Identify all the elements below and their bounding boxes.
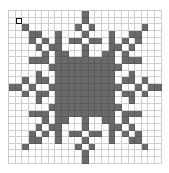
filled-cell[interactable] xyxy=(36,91,43,98)
empty-cell[interactable] xyxy=(42,124,49,131)
empty-cell[interactable] xyxy=(42,97,49,104)
empty-cell[interactable] xyxy=(142,71,149,78)
empty-cell[interactable] xyxy=(115,31,122,38)
empty-cell[interactable] xyxy=(22,157,29,164)
empty-cell[interactable] xyxy=(49,31,56,38)
filled-cell[interactable] xyxy=(129,44,136,51)
empty-cell[interactable] xyxy=(122,64,129,71)
empty-cell[interactable] xyxy=(16,11,23,18)
filled-cell[interactable] xyxy=(16,84,23,91)
filled-cell[interactable] xyxy=(75,24,82,31)
empty-cell[interactable] xyxy=(49,77,56,84)
filled-cell[interactable] xyxy=(55,124,62,131)
empty-cell[interactable] xyxy=(75,150,82,157)
empty-cell[interactable] xyxy=(29,104,36,111)
empty-cell[interactable] xyxy=(9,44,16,51)
empty-cell[interactable] xyxy=(155,117,162,124)
filled-cell[interactable] xyxy=(36,57,43,64)
empty-cell[interactable] xyxy=(69,117,76,124)
filled-cell[interactable] xyxy=(109,131,116,138)
filled-cell[interactable] xyxy=(55,57,62,64)
empty-cell[interactable] xyxy=(9,64,16,71)
filled-cell[interactable] xyxy=(135,38,142,45)
filled-cell[interactable] xyxy=(36,97,43,104)
empty-cell[interactable] xyxy=(95,144,102,151)
empty-cell[interactable] xyxy=(29,117,36,124)
filled-cell[interactable] xyxy=(135,111,142,118)
filled-cell[interactable] xyxy=(36,111,43,118)
filled-cell[interactable] xyxy=(75,84,82,91)
empty-cell[interactable] xyxy=(102,44,109,51)
filled-cell[interactable] xyxy=(95,91,102,98)
filled-cell[interactable] xyxy=(109,84,116,91)
empty-cell[interactable] xyxy=(102,11,109,18)
empty-cell[interactable] xyxy=(42,84,49,91)
filled-cell[interactable] xyxy=(135,131,142,138)
empty-cell[interactable] xyxy=(49,18,56,25)
empty-cell[interactable] xyxy=(89,51,96,58)
empty-cell[interactable] xyxy=(122,144,129,151)
filled-cell[interactable] xyxy=(82,137,89,144)
empty-cell[interactable] xyxy=(9,77,16,84)
filled-cell[interactable] xyxy=(89,84,96,91)
filled-cell[interactable] xyxy=(89,64,96,71)
empty-cell[interactable] xyxy=(16,111,23,118)
filled-cell[interactable] xyxy=(82,71,89,78)
empty-cell[interactable] xyxy=(135,18,142,25)
filled-cell[interactable] xyxy=(62,77,69,84)
empty-cell[interactable] xyxy=(69,157,76,164)
empty-cell[interactable] xyxy=(49,97,56,104)
empty-cell[interactable] xyxy=(155,111,162,118)
empty-cell[interactable] xyxy=(102,24,109,31)
empty-cell[interactable] xyxy=(62,150,69,157)
empty-cell[interactable] xyxy=(62,144,69,151)
empty-cell[interactable] xyxy=(16,24,23,31)
empty-cell[interactable] xyxy=(16,71,23,78)
empty-cell[interactable] xyxy=(102,131,109,138)
empty-cell[interactable] xyxy=(102,124,109,131)
filled-cell[interactable] xyxy=(102,64,109,71)
empty-cell[interactable] xyxy=(16,150,23,157)
filled-cell[interactable] xyxy=(109,117,116,124)
empty-cell[interactable] xyxy=(16,97,23,104)
empty-cell[interactable] xyxy=(115,11,122,18)
filled-cell[interactable] xyxy=(55,31,62,38)
filled-cell[interactable] xyxy=(135,31,142,38)
empty-cell[interactable] xyxy=(62,44,69,51)
filled-cell[interactable] xyxy=(49,104,56,111)
empty-cell[interactable] xyxy=(89,117,96,124)
filled-cell[interactable] xyxy=(95,64,102,71)
filled-cell[interactable] xyxy=(55,51,62,58)
filled-cell[interactable] xyxy=(42,131,49,138)
filled-cell[interactable] xyxy=(122,51,129,58)
empty-cell[interactable] xyxy=(49,137,56,144)
empty-cell[interactable] xyxy=(36,144,43,151)
empty-cell[interactable] xyxy=(89,124,96,131)
empty-cell[interactable] xyxy=(102,18,109,25)
empty-cell[interactable] xyxy=(49,144,56,151)
filled-cell[interactable] xyxy=(62,97,69,104)
empty-cell[interactable] xyxy=(148,38,155,45)
empty-cell[interactable] xyxy=(122,24,129,31)
empty-cell[interactable] xyxy=(142,31,149,38)
empty-cell[interactable] xyxy=(82,24,89,31)
empty-cell[interactable] xyxy=(122,104,129,111)
filled-cell[interactable] xyxy=(55,117,62,124)
filled-cell[interactable] xyxy=(36,124,43,131)
empty-cell[interactable] xyxy=(49,57,56,64)
empty-cell[interactable] xyxy=(75,124,82,131)
empty-cell[interactable] xyxy=(36,157,43,164)
filled-cell[interactable] xyxy=(69,64,76,71)
empty-cell[interactable] xyxy=(102,150,109,157)
empty-cell[interactable] xyxy=(148,44,155,51)
empty-cell[interactable] xyxy=(16,104,23,111)
filled-cell[interactable] xyxy=(36,137,43,144)
empty-cell[interactable] xyxy=(16,144,23,151)
filled-cell[interactable] xyxy=(109,137,116,144)
filled-cell[interactable] xyxy=(115,104,122,111)
empty-cell[interactable] xyxy=(75,157,82,164)
empty-cell[interactable] xyxy=(69,137,76,144)
filled-cell[interactable] xyxy=(109,31,116,38)
empty-cell[interactable] xyxy=(62,31,69,38)
empty-cell[interactable] xyxy=(42,137,49,144)
